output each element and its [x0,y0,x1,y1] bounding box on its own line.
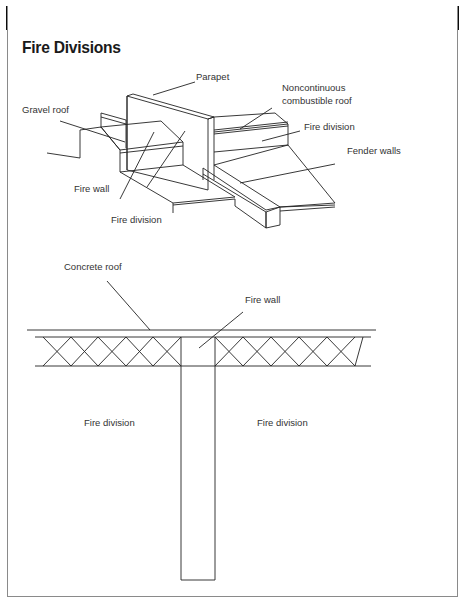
fire-divisions-diagram: Parapet Gravel roof Noncontinuous combus… [0,0,465,603]
section-labels: Concrete roof Fire wall Fire division Fi… [64,261,308,428]
label-fire-wall: Fire wall [74,183,109,194]
label-fire-division-right: Fire division [304,121,355,132]
label-fire-division-bottom: Fire division [111,214,162,225]
label-fender-walls: Fender walls [347,145,401,156]
section-view [27,281,376,580]
label-concrete-roof: Concrete roof [64,261,122,272]
label-parapet: Parapet [196,71,230,82]
label-gravel-roof: Gravel roof [22,104,69,115]
isometric-labels: Parapet Gravel roof Noncontinuous combus… [22,71,401,225]
label-fire-division-left: Fire division [84,417,135,428]
label-noncontinuous-line1: Noncontinuous [282,82,346,93]
label-noncontinuous-line2: combustible roof [282,95,352,106]
label-fire-division-right-section: Fire division [257,417,308,428]
label-fire-wall-section: Fire wall [245,294,280,305]
